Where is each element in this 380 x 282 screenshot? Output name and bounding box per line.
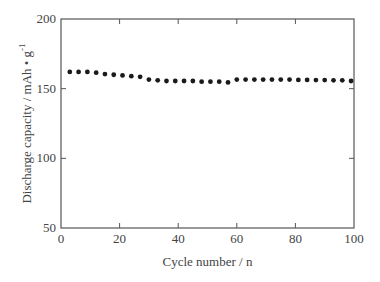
x-axis-title: Cycle number / n [163, 254, 253, 269]
data-point [120, 73, 125, 78]
data-point [270, 77, 275, 82]
data-point [190, 79, 195, 84]
data-point [340, 78, 345, 83]
data-point [287, 77, 292, 82]
data-point [226, 80, 231, 85]
data-point [261, 77, 266, 82]
y-axis-title-superscript: -1 [17, 43, 27, 51]
data-point [322, 78, 327, 83]
data-point [199, 79, 204, 84]
data-point [76, 70, 81, 75]
y-axis-title: Discharge capacity / mAh • g-1 [17, 43, 34, 203]
data-point [296, 77, 301, 82]
data-point [243, 77, 248, 82]
data-point [314, 78, 319, 83]
x-tick-label: 100 [344, 231, 364, 246]
data-point [331, 78, 336, 83]
data-point [85, 70, 90, 75]
plot-border [61, 19, 354, 228]
chart-canvas: 020406080100 50100150200 Cycle number / … [0, 0, 380, 282]
data-point [305, 77, 310, 82]
data-point [208, 79, 213, 84]
data-point [349, 79, 354, 84]
axis-ticks [61, 19, 354, 228]
data-point [94, 70, 99, 75]
data-point [234, 77, 239, 82]
y-tick-label: 100 [37, 150, 57, 165]
y-tick-label: 50 [43, 220, 56, 235]
y-tick-label: 200 [37, 11, 57, 26]
data-point [217, 79, 222, 84]
x-tick-labels: 020406080100 [58, 231, 364, 246]
data-points [67, 70, 353, 85]
data-point [111, 72, 116, 77]
data-point [138, 74, 143, 79]
y-axis-title-text: Discharge capacity / mAh • g [19, 50, 34, 203]
y-tick-label: 150 [37, 81, 57, 96]
data-point [129, 74, 134, 79]
y-tick-labels: 50100150200 [37, 11, 57, 235]
x-tick-label: 20 [113, 231, 126, 246]
x-tick-label: 60 [230, 231, 243, 246]
data-point [182, 79, 187, 84]
data-point [173, 79, 178, 84]
data-point [278, 77, 283, 82]
data-point [67, 70, 72, 75]
data-point [155, 78, 160, 83]
data-point [103, 72, 108, 77]
data-point [164, 79, 169, 84]
data-point [147, 77, 152, 82]
data-point [252, 77, 257, 82]
plot-frame [61, 19, 354, 228]
x-tick-label: 80 [289, 231, 302, 246]
x-tick-label: 0 [58, 231, 65, 246]
x-tick-label: 40 [172, 231, 185, 246]
